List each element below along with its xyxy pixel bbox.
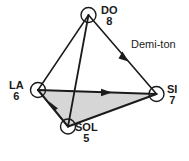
- node-label-la-number: 6: [9, 91, 24, 102]
- tetrahedron-diagram: DO 8 LA 6 SI 7 SOL 5 Demi-ton: [0, 0, 189, 161]
- node-si[interactable]: [149, 87, 164, 102]
- node-label-si-number: 7: [167, 95, 177, 106]
- node-la[interactable]: [31, 83, 46, 98]
- node-do[interactable]: [81, 8, 96, 23]
- node-label-la: LA 6: [9, 80, 24, 102]
- node-label-si: SI 7: [167, 84, 177, 106]
- node-label-do-number: 8: [101, 16, 118, 27]
- edge-label-demi-ton: Demi-ton: [131, 38, 176, 50]
- arrowhead-do-si-icon: [119, 52, 129, 62]
- node-label-do: DO 8: [101, 5, 118, 27]
- node-label-sol-number: 5: [75, 133, 98, 144]
- node-label-sol: SOL 5: [75, 122, 98, 144]
- node-sol[interactable]: [61, 119, 76, 134]
